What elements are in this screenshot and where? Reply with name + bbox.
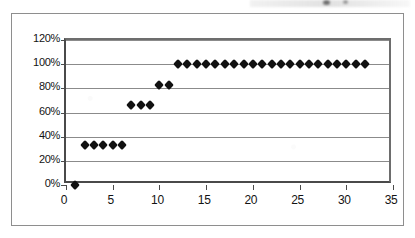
data-point-marker xyxy=(117,140,127,150)
x-axis-tick-label: 20 xyxy=(244,193,257,207)
x-axis-tick-label: 30 xyxy=(338,193,351,207)
y-axis-tick-mark xyxy=(61,161,66,162)
data-point-marker xyxy=(220,59,230,69)
x-axis-tick-label: 5 xyxy=(108,193,114,207)
y-axis-tick-label: 60% xyxy=(39,105,60,117)
y-axis-tick-label: 100% xyxy=(33,56,60,68)
y-axis-tick-mark xyxy=(61,113,66,114)
x-axis-tick-mark xyxy=(253,185,254,190)
gridline xyxy=(66,88,389,89)
data-point-marker xyxy=(136,100,146,110)
x-axis-tick-mark xyxy=(300,185,301,190)
x-axis-tick-mark xyxy=(346,185,347,190)
data-point-marker xyxy=(248,59,258,69)
gridline xyxy=(66,161,389,162)
y-axis-tick-label: 0% xyxy=(45,177,60,189)
y-axis-tick-mark xyxy=(61,40,66,41)
data-point-marker xyxy=(239,59,249,69)
x-axis-tick-label: 25 xyxy=(291,193,304,207)
y-axis-tick-label: 20% xyxy=(39,153,60,165)
x-axis-tick-mark xyxy=(159,185,160,190)
gridline xyxy=(66,137,389,138)
y-axis-tick-label: 80% xyxy=(39,80,60,92)
x-axis-tick-mark xyxy=(393,185,394,190)
y-axis-tick-mark xyxy=(61,64,66,65)
x-axis-tick-label: 35 xyxy=(385,193,398,207)
gridline xyxy=(66,113,389,114)
gridline xyxy=(66,40,389,41)
data-point-marker xyxy=(285,59,295,69)
x-axis-tick-label: 0 xyxy=(61,193,67,207)
data-point-marker xyxy=(126,100,136,110)
data-point-marker xyxy=(98,140,108,150)
data-point-marker xyxy=(341,59,351,69)
data-point-marker xyxy=(323,59,333,69)
data-point-marker xyxy=(70,180,80,190)
data-point-marker xyxy=(108,140,118,150)
chart-plot-wrapper: 0%20%40%60%80%100%120% 05101520253035 xyxy=(12,14,405,227)
x-axis-tick-mark xyxy=(206,185,207,190)
y-axis-tick-mark xyxy=(61,88,66,89)
data-point-marker xyxy=(313,59,323,69)
x-axis-tick-mark xyxy=(66,185,67,190)
data-point-marker xyxy=(257,59,267,69)
data-point-marker xyxy=(229,59,239,69)
y-axis-tick-mark xyxy=(61,185,66,186)
data-point-marker xyxy=(295,59,305,69)
y-axis-tick-mark xyxy=(61,137,66,138)
data-point-marker xyxy=(360,59,370,69)
data-point-marker xyxy=(351,59,361,69)
data-point-marker xyxy=(145,100,155,110)
x-axis-tick-label: 10 xyxy=(151,193,164,207)
data-point-marker xyxy=(80,140,90,150)
data-point-marker xyxy=(211,59,221,69)
plot-area xyxy=(64,38,391,183)
x-axis-tick-mark xyxy=(113,185,114,190)
y-axis-tick-label: 120% xyxy=(33,32,60,44)
data-point-marker xyxy=(192,59,202,69)
data-point-marker xyxy=(267,59,277,69)
scan-smudge-mark xyxy=(323,0,330,5)
scan-edge-artifact xyxy=(250,0,410,7)
x-axis-tick-label: 15 xyxy=(198,193,211,207)
scan-smudge-mark xyxy=(343,0,348,4)
y-axis-tick-label: 40% xyxy=(39,129,60,141)
chart-frame: 0%20%40%60%80%100%120% 05101520253035 xyxy=(11,13,404,226)
data-point-marker xyxy=(183,59,193,69)
